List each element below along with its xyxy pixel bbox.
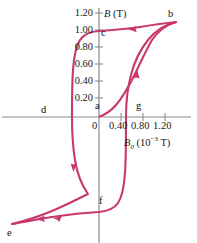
x-axis-exponent: −3 <box>151 135 158 143</box>
y-tick-label-1-00: 1.00 <box>60 25 93 36</box>
x-tick-label-0: 0 <box>92 121 97 132</box>
y-axis-title: B (T) <box>104 8 126 19</box>
point-label-b: b <box>168 9 173 20</box>
point-label-f: f <box>99 196 103 207</box>
x-axis-unit-pre: (10 <box>137 137 151 148</box>
y-tick-label-0-60: 0.60 <box>60 59 93 70</box>
y-tick-label-0-80: 0.80 <box>60 42 93 53</box>
point-label-d: d <box>41 105 46 116</box>
point-label-c: c <box>101 28 106 39</box>
point-label-e: e <box>7 228 12 239</box>
arrow-left-top <box>128 26 137 32</box>
y-axis-unit-text: (T) <box>113 8 126 19</box>
y-tick-label-0-20: 0.20 <box>60 93 93 104</box>
y-tick-label-0-40: 0.40 <box>60 76 93 87</box>
x-axis-unit-post: T) <box>158 137 170 148</box>
x-axis-title: B0 (10−3 T) <box>124 134 170 153</box>
point-label-a: a <box>95 101 100 112</box>
y-tick-label-1-20: 1.20 <box>60 8 93 19</box>
x-tick-label-1-20: 1.20 <box>153 121 171 132</box>
x-tick-label-0-40: 0.40 <box>109 121 127 132</box>
point-label-g: g <box>136 101 141 112</box>
x-tick-label-0-80: 0.80 <box>131 121 149 132</box>
